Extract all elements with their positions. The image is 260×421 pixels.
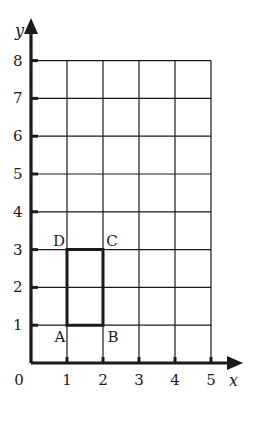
vertex-label-d: D [53,232,65,250]
x-axis-arrow-icon [227,356,243,370]
x-tick-label: 2 [98,371,108,389]
x-tick-label: 4 [170,371,180,389]
y-tick-label: 7 [13,89,23,107]
axes [24,18,243,370]
y-tick-label: 1 [13,316,23,334]
vertex-label-b: B [107,328,118,346]
y-tick-label: 4 [13,203,23,221]
vertex-label-a: A [54,328,66,346]
x-tick-label: 0 [14,371,24,389]
grid-lines [31,61,211,363]
coordinate-grid: 12345678012345yxABCD [0,0,260,421]
x-tick-label: 3 [134,371,144,389]
y-axis-label: y [14,21,25,40]
y-tick-label: 2 [13,278,23,296]
labels: 12345678012345yxABCD [13,21,238,390]
y-tick-label: 3 [13,241,23,259]
x-tick-label: 5 [206,371,216,389]
vertex-label-c: C [106,232,117,250]
y-axis-arrow-icon [24,18,38,34]
y-tick-label: 6 [13,127,23,145]
y-tick-label: 5 [13,165,23,183]
y-tick-label: 8 [13,52,23,70]
x-tick-label: 1 [62,371,72,389]
x-axis-label: x [229,371,238,390]
